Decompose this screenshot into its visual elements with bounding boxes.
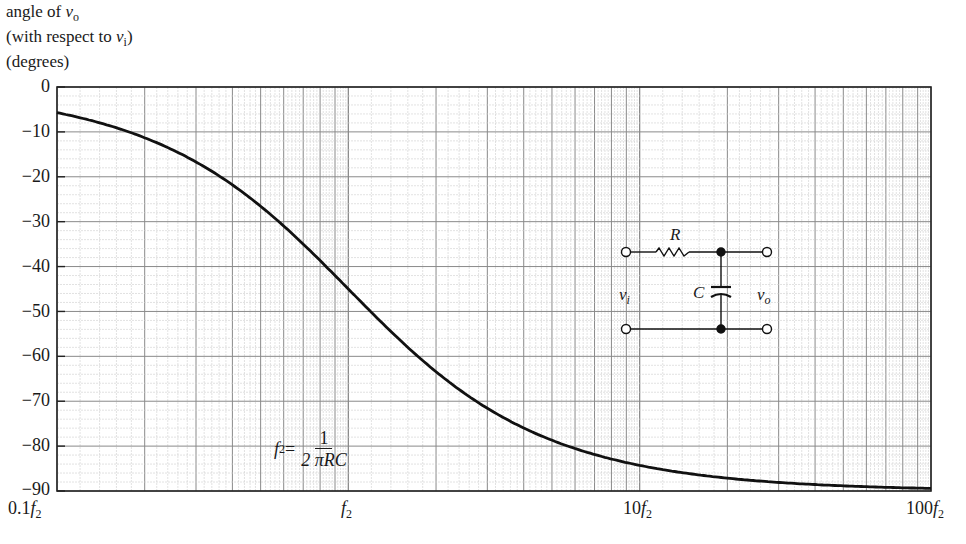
junction-dot	[717, 248, 725, 256]
ytick-label: −20	[6, 166, 50, 187]
output-voltage-label: vo	[757, 285, 771, 308]
output-terminal-top	[763, 248, 772, 257]
input-terminal-top	[622, 248, 631, 257]
xtick-label: 10f2	[623, 498, 652, 522]
plot-frame	[57, 87, 931, 491]
phase-plot	[0, 0, 966, 544]
xtick-label: 0.1f2	[8, 498, 42, 522]
formula-denominator: 2 πRC	[301, 449, 347, 471]
ytick-label: −80	[6, 435, 50, 456]
resistor-symbol	[656, 248, 689, 256]
output-terminal-bottom	[763, 325, 772, 334]
input-terminal-bottom	[622, 325, 631, 334]
formula-equals: =	[285, 439, 295, 460]
cutoff-formula: f2 = 1 2 πRC	[274, 428, 347, 471]
xtick-label: f2	[341, 498, 352, 522]
formula-fraction: 1 2 πRC	[301, 428, 347, 471]
ytick-label: −40	[6, 256, 50, 277]
junction-dot	[717, 325, 725, 333]
ytick-label: −90	[6, 479, 50, 500]
formula-numerator: 1	[315, 428, 332, 449]
ytick-label: −10	[6, 121, 50, 142]
resistor-label: R	[670, 225, 680, 245]
ytick-label: 0	[6, 76, 50, 97]
xtick-label: 100f2	[906, 498, 944, 522]
input-voltage-label: vi	[619, 285, 630, 308]
phase-curve	[57, 113, 931, 489]
ytick-label: −30	[6, 211, 50, 232]
y-tick-marks	[57, 87, 65, 491]
ytick-label: −70	[6, 390, 50, 411]
capacitor-label: C	[693, 283, 704, 303]
grid	[57, 87, 931, 491]
ytick-label: −60	[6, 345, 50, 366]
ytick-label: −50	[6, 301, 50, 322]
